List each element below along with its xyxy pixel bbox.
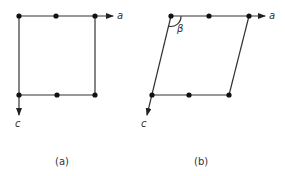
lattice-point [206, 13, 211, 18]
lattice-point [92, 13, 97, 18]
lattice-point [16, 92, 21, 97]
lattice-point [186, 92, 191, 97]
lattice-point [16, 13, 21, 18]
beta-angle-label: β [176, 23, 184, 34]
lattice-point [168, 13, 173, 18]
axis-c-label: c [15, 118, 21, 129]
axis-a-label: a [269, 10, 275, 21]
diagram-canvas: a c (a) β a c (b) [0, 0, 285, 176]
cell-edge-right [229, 16, 249, 95]
panel-a: a c (a) [15, 10, 123, 167]
lattice-point [246, 13, 251, 18]
lattice-point [149, 92, 154, 97]
panel-caption-a: (a) [55, 156, 69, 167]
lattice-point [54, 92, 59, 97]
lattice-point [92, 92, 97, 97]
lattice-point [226, 92, 231, 97]
panel-caption-b: (b) [194, 156, 208, 167]
lattice-point [53, 13, 58, 18]
axis-c-arrow [147, 16, 171, 115]
axis-a-label: a [117, 10, 123, 21]
axis-c-label: c [141, 118, 147, 129]
panel-b: β a c (b) [141, 10, 275, 167]
